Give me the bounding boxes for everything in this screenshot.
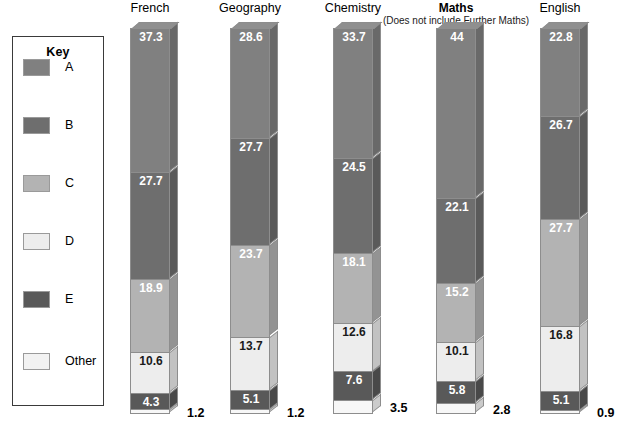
bar-stack: 4422.115.210.15.82.8 (436, 28, 484, 414)
bar-segment-side-face (476, 192, 484, 283)
legend-item-label: E (65, 291, 73, 308)
bar-segment-french-b[interactable]: 27.7 (130, 172, 170, 279)
legend-item-label: Other (65, 353, 96, 370)
legend-item-e[interactable]: E (23, 291, 97, 311)
segment-value-label: 22.1 (437, 201, 477, 214)
bar-segment-side-face (170, 166, 178, 278)
bar-segment-maths-c[interactable]: 15.2 (436, 283, 476, 342)
legend-item-a[interactable]: A (23, 59, 97, 79)
legend-swatch-other (23, 353, 50, 370)
bar-segment-geography-other[interactable]: 1.2 (230, 409, 270, 414)
bar-segment-maths-e[interactable]: 5.8 (436, 381, 476, 403)
segment-value-label-other: 2.8 (493, 403, 510, 417)
bar-segment-geography-e[interactable]: 5.1 (230, 390, 270, 410)
bar-segment-french-d[interactable]: 10.6 (130, 352, 170, 393)
legend-swatch-e (23, 291, 50, 308)
bar-segment-side-face (580, 320, 588, 390)
segment-value-label: 4.3 (131, 396, 171, 409)
segment-value-label: 22.8 (541, 31, 581, 44)
segment-value-label: 18.1 (334, 256, 374, 269)
legend-item-c[interactable]: C (23, 175, 97, 195)
bar-segment-side-face (580, 213, 588, 325)
segment-value-label: 28.6 (231, 31, 271, 44)
bar-segment-geography-c[interactable]: 23.7 (230, 245, 270, 336)
bar-segment-side-face (270, 331, 278, 389)
bar-segment-french-e[interactable]: 4.3 (130, 393, 170, 410)
bar-segment-french-a[interactable]: 37.3 (130, 28, 170, 172)
legend-key-box: Key ABCDEOther (12, 36, 104, 406)
legend-item-d[interactable]: D (23, 233, 97, 253)
bar-segment-maths-b[interactable]: 22.1 (436, 198, 476, 283)
bar-top-cap (231, 22, 279, 29)
bar-segment-maths-a[interactable]: 44 (436, 28, 476, 198)
bar-segment-geography-a[interactable]: 28.6 (230, 28, 270, 138)
bar-segment-side-face (580, 110, 588, 218)
legend-item-b[interactable]: B (23, 117, 97, 137)
bar-group-english: English22.826.727.716.85.10.9 (540, 0, 600, 433)
segment-value-label: 12.6 (334, 326, 374, 339)
segment-value-label: 13.7 (231, 340, 271, 353)
bar-top-cap (334, 22, 382, 29)
bar-segment-side-face (170, 273, 178, 351)
segment-value-label: 10.6 (131, 355, 171, 368)
bar-title: Maths (439, 1, 474, 15)
bar-segment-english-c[interactable]: 27.7 (540, 219, 580, 326)
segment-value-label: 37.3 (131, 31, 171, 44)
segment-value-label: 15.2 (437, 286, 477, 299)
bar-stack: 37.327.718.910.64.31.2 (130, 28, 178, 414)
segment-value-label: 10.1 (437, 345, 477, 358)
bar-segment-side-face (170, 346, 178, 392)
bar-segment-french-other[interactable]: 1.2 (130, 409, 170, 414)
bar-segment-side-face (373, 316, 381, 370)
bar-segment-side-face (476, 22, 484, 197)
bar-segment-french-c[interactable]: 18.9 (130, 279, 170, 352)
segment-value-label-other: 1.2 (287, 406, 304, 420)
bar-segment-side-face (170, 22, 178, 171)
bar-segment-chemistry-c[interactable]: 18.1 (333, 253, 373, 323)
bar-segment-chemistry-d[interactable]: 12.6 (333, 323, 373, 372)
segment-value-label: 16.8 (541, 329, 581, 342)
bar-title: French (131, 1, 170, 15)
segment-value-label: 33.7 (334, 31, 374, 44)
bar-segment-geography-d[interactable]: 13.7 (230, 337, 270, 390)
bar-segment-english-b[interactable]: 26.7 (540, 116, 580, 219)
bar-segment-maths-other[interactable]: 2.8 (436, 403, 476, 414)
legend-title: Key (13, 45, 103, 59)
bar-title: Chemistry (325, 1, 381, 15)
bar-title: English (540, 1, 581, 15)
bar-segment-english-d[interactable]: 16.8 (540, 326, 580, 391)
bar-stack: 33.724.518.112.67.63.5 (333, 28, 381, 414)
bar-group-french: French37.327.718.910.64.31.2 (130, 0, 190, 433)
segment-value-label: 23.7 (231, 248, 271, 261)
bar-segment-chemistry-a[interactable]: 33.7 (333, 28, 373, 158)
bar-segment-geography-b[interactable]: 27.7 (230, 138, 270, 245)
segment-value-label: 7.6 (334, 374, 374, 387)
segment-value-label: 27.7 (541, 222, 581, 235)
segment-value-label: 18.9 (131, 282, 171, 295)
bar-segment-english-a[interactable]: 22.8 (540, 28, 580, 116)
segment-value-label: 27.7 (231, 141, 271, 154)
bar-segment-chemistry-other[interactable]: 3.5 (333, 400, 373, 414)
bar-segment-side-face (476, 277, 484, 341)
segment-value-label: 26.7 (541, 119, 581, 132)
legend-swatch-b (23, 117, 50, 134)
bar-segment-english-other[interactable]: 0.9 (540, 410, 580, 413)
legend-swatch-c (23, 175, 50, 192)
bar-segment-maths-d[interactable]: 10.1 (436, 342, 476, 381)
bar-segment-chemistry-b[interactable]: 24.5 (333, 158, 373, 253)
bar-top-cap (541, 22, 589, 29)
stacked-bar-chart: Key ABCDEOther French37.327.718.910.64.3… (0, 0, 628, 433)
legend-item-other[interactable]: Other (23, 353, 97, 373)
bar-segment-side-face (270, 239, 278, 336)
bar-segment-chemistry-e[interactable]: 7.6 (333, 371, 373, 400)
legend-item-label: D (65, 233, 74, 250)
segment-value-label-other: 0.9 (597, 406, 614, 420)
bar-segment-english-e[interactable]: 5.1 (540, 391, 580, 411)
segment-value-label: 5.1 (541, 394, 581, 407)
bar-title: Geography (219, 1, 281, 15)
bar-segment-side-face (580, 22, 588, 115)
bar-segment-side-face (270, 132, 278, 244)
bar-group-geography: Geography28.627.723.713.75.11.2 (230, 0, 290, 433)
legend-item-label: B (65, 117, 73, 134)
bar-stack: 28.627.723.713.75.11.2 (230, 28, 278, 414)
